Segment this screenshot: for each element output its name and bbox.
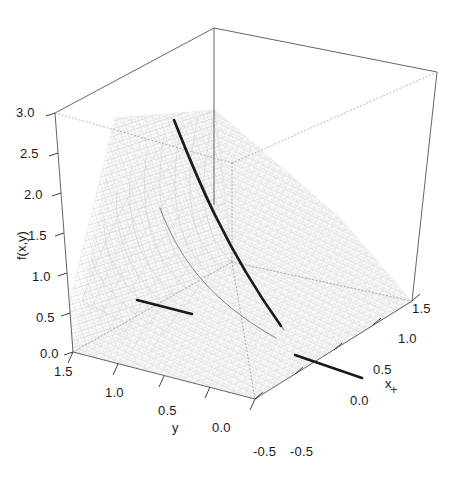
z-tick-label-3-0: 3.0 (16, 105, 35, 120)
y-tick-label-0-5: 0.5 (158, 403, 177, 418)
z-axis-title: f(x,y) (14, 231, 29, 260)
x-tick-label-1-5: 1.5 (412, 301, 431, 316)
x-tick-label-neg-0-5: -0.5 (290, 444, 313, 459)
y-tick-label-neg-0-5: -0.5 (253, 444, 276, 459)
x-tick-label-0-5: 0.5 (373, 362, 392, 377)
z-tick-label-2-0: 2.0 (24, 187, 43, 202)
x-tick-label-0-0: 0.0 (350, 393, 369, 408)
z-tick-label-2-5: 2.5 (20, 146, 39, 161)
z-tick-label-0-0: 0.0 (40, 346, 59, 361)
plot-canvas (0, 0, 453, 479)
z-tick-label-1-0: 1.0 (32, 269, 51, 284)
x-tick-label-1-0: 1.0 (398, 331, 417, 346)
z-tick-label-0-5: 0.5 (36, 310, 55, 325)
surface-plot-figure: 3.0 2.5 2.0 1.5 1.0 0.5 0.0 f(x,y) 1.5 1… (0, 0, 453, 479)
y-tick-label-1-5: 1.5 (54, 364, 73, 379)
plus-marker-annotation: + (390, 382, 398, 397)
z-tick-label-1-5: 1.5 (28, 228, 47, 243)
y-tick-label-1-0: 1.0 (105, 385, 124, 400)
y-tick-label-0-0: 0.0 (212, 420, 231, 435)
y-axis-title: y (172, 420, 179, 435)
